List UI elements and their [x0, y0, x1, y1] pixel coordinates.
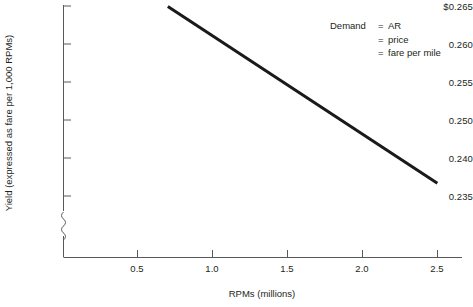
annotation-text-2: fare per mile [388, 47, 441, 58]
y-tick-label-4: 0.240 [415, 153, 473, 164]
yield-demand-chart: $0.265 0.260 0.255 0.250 0.240 0.235 0.5… [0, 0, 473, 307]
y-tick-label-3: 0.250 [415, 115, 473, 126]
axis-break-squiggle [62, 212, 66, 240]
annotation-eq-0: = [378, 19, 388, 33]
y-tick-label-5: 0.235 [415, 191, 473, 202]
annotation-lead-0: Demand [330, 19, 378, 33]
x-tick-label-0: 0.5 [130, 263, 144, 274]
x-tick-label-4: 2.5 [430, 263, 444, 274]
x-axis-title: RPMs (millions) [229, 288, 296, 299]
x-tick-label-2: 1.5 [280, 263, 294, 274]
annotation-text-1: price [388, 34, 409, 45]
annotation-text-0: AR [388, 20, 401, 31]
annotation-row-2: =fare per mile [330, 46, 441, 60]
x-tick-label-3: 2.0 [355, 263, 369, 274]
y-tick-label-0: $0.265 [415, 1, 473, 12]
annotation-eq-2: = [378, 46, 388, 60]
x-tick-label-1: 1.0 [205, 263, 219, 274]
annotation-row-0: Demand=AR [330, 19, 441, 33]
annotation-row-1: =price [330, 33, 441, 47]
y-axis-title: Yield (expressed as fare per 1,000 RPMs) [3, 3, 14, 243]
y-tick-label-2: 0.255 [415, 77, 473, 88]
annotation-eq-1: = [378, 33, 388, 47]
demand-annotation: Demand=AR =price =fare per mile [330, 19, 441, 60]
